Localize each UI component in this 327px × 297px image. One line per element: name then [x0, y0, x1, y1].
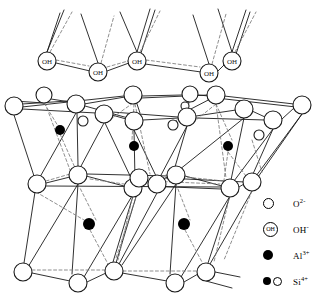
- oxide-ion-circle: [105, 262, 123, 280]
- oxide-ion-circle: [293, 96, 311, 114]
- legend-item-aluminium: Al3+: [263, 242, 325, 268]
- open-circle-icon: [263, 198, 274, 209]
- oxide-ion-circle: [166, 274, 184, 292]
- aluminium-ion-circle: [178, 218, 190, 230]
- legend-label-oxide: O2-: [293, 197, 306, 209]
- legend-item-oxide: O2-: [263, 190, 325, 216]
- hydroxide-ion-label: OH: [42, 58, 52, 66]
- oxide-ion-group-bottom: [14, 262, 215, 292]
- oxide-ion-circle: [14, 263, 32, 281]
- legend-label-aluminium: Al3+: [293, 249, 310, 261]
- oxide-ion-circle: [69, 166, 87, 184]
- hydroxide-ion-group-top: OHOHOHOHOH: [38, 52, 241, 82]
- aluminium-ion-circle: [129, 141, 139, 151]
- legend-label-silicon: Si4+: [293, 275, 308, 287]
- oxide-ion-circle: [182, 86, 198, 102]
- hydroxide-symbol: OH: [263, 222, 293, 237]
- oxide-symbol: [263, 198, 293, 209]
- oxide-ion-circle: [207, 86, 225, 104]
- oxide-ion-circle: [36, 87, 52, 103]
- oxide-ion-circle: [28, 175, 46, 193]
- oxide-ion-circle: [178, 108, 196, 126]
- silicon-symbol: [263, 277, 293, 286]
- oxide-ion-circle: [264, 111, 282, 129]
- oxide-ion-circle: [243, 173, 261, 191]
- aluminium-symbol: [263, 250, 293, 260]
- bond-lines-solid: [14, 9, 302, 288]
- oxide-ion-circle: [124, 86, 142, 104]
- oxide-ion-circle: [69, 274, 87, 292]
- open-circle-icon: [273, 277, 282, 286]
- aluminium-ion-circle: [55, 125, 65, 135]
- filled-circle-icon: [263, 250, 273, 260]
- bond-lines-dashed: [32, 11, 262, 271]
- oxide-ion-group-middle: [28, 166, 261, 197]
- legend-item-hydroxide: OH OH-: [263, 216, 325, 242]
- filled-circle-icon: [263, 277, 271, 285]
- hydroxide-ion-label: OH: [204, 70, 214, 78]
- hydroxide-ion-label: OH: [93, 69, 103, 77]
- hydroxide-ion-label: OH: [132, 58, 142, 66]
- legend: O2- OH OH- Al3+ Si4+: [263, 190, 325, 294]
- silicon-ion-circle: [168, 120, 178, 130]
- aluminium-ion-circle: [223, 141, 233, 151]
- oxide-ion-circle: [5, 97, 23, 115]
- oxide-ion-circle: [130, 169, 148, 187]
- oxide-ion-circle: [221, 179, 239, 197]
- legend-item-silicon: Si4+: [263, 268, 325, 294]
- oxide-ion-circle: [125, 112, 143, 130]
- figure-canvas: OHOHOHOHOH O2- OH OH- Al3+: [0, 0, 327, 297]
- oxide-ion-circle: [197, 263, 215, 281]
- aluminium-ion-circle: [83, 218, 95, 230]
- legend-label-hydroxide: OH-: [293, 223, 309, 235]
- oxide-ion-circle: [235, 100, 253, 118]
- oxide-ion-circle: [67, 95, 85, 113]
- oxide-ion-circle: [148, 175, 166, 193]
- oh-circle-icon: OH: [263, 222, 278, 237]
- silicon-ion-circle: [78, 116, 88, 126]
- silicon-ion-circle: [254, 130, 264, 140]
- oxide-ion-circle: [95, 105, 113, 123]
- oxide-ion-circle: [167, 166, 185, 184]
- hydroxide-ion-label: OH: [227, 58, 237, 66]
